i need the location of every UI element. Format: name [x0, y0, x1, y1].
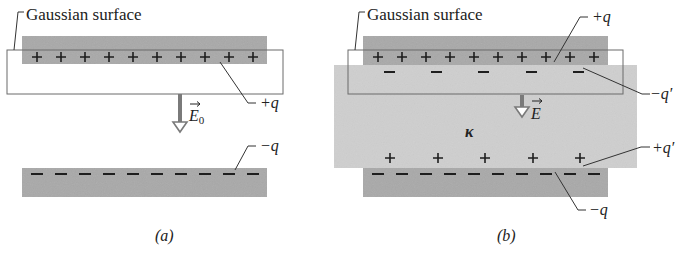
- caption-a: (a): [155, 227, 174, 245]
- plus-q-prime-label: +q′: [652, 139, 675, 157]
- dielectric-slab: [334, 65, 637, 168]
- plus-q-label: +q: [260, 94, 279, 112]
- panel-a: Gaussian surface +q E0 −q (a): [7, 5, 283, 245]
- vector-arrow-icon: [190, 102, 200, 107]
- minus-q-prime-label: −q′: [650, 85, 673, 103]
- dielectric-constant-label: κ: [465, 123, 474, 140]
- field-e0-label: E0: [188, 107, 205, 126]
- gaussian-surface-label: Gaussian surface: [367, 5, 483, 24]
- capacitor-dielectric-diagram: Gaussian surface +q E0 −q (a): [0, 0, 683, 256]
- minus-q-label: −q: [589, 201, 608, 219]
- field-e-label: E: [530, 105, 541, 122]
- caption-b: (b): [497, 227, 516, 245]
- gaussian-surface-label: Gaussian surface: [26, 5, 142, 24]
- panel-b: Gaussian surface +q −q′ E κ +q′ −q: [334, 5, 675, 245]
- minus-q-label: −q: [260, 137, 279, 155]
- field-arrow-e0: [173, 94, 187, 132]
- plus-q-label: +q: [592, 8, 611, 26]
- plus-q-leader: [220, 62, 256, 103]
- bottom-plate-negative: [22, 168, 267, 197]
- bottom-plate-negative: [363, 168, 608, 197]
- minus-q-leader: [235, 146, 256, 170]
